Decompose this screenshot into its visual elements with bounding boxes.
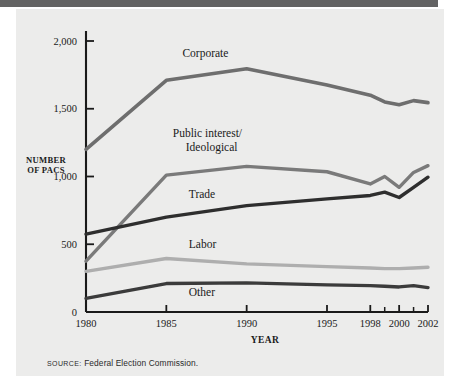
x-tick-label: 1995 — [317, 318, 338, 329]
x-tick-label: 1980 — [76, 318, 97, 329]
series-line — [86, 166, 428, 262]
x-axis-title: YEAR — [251, 335, 280, 345]
figure-page: 05001,0001,5002,000NUMBEROF PACS19801985… — [0, 0, 460, 390]
series-label: Corporate — [182, 47, 228, 60]
page-top-bar — [0, 0, 438, 7]
series-label: Public interest/ — [173, 127, 243, 139]
plot-area: 05001,0001,5002,000NUMBEROF PACS19801985… — [16, 9, 444, 376]
x-tick-label: 1990 — [236, 318, 257, 329]
x-tick-label: 1985 — [156, 318, 177, 329]
series-line — [86, 283, 428, 299]
line-chart: 05001,0001,5002,000NUMBEROF PACS19801985… — [16, 9, 444, 376]
series-label: Other — [189, 286, 215, 298]
source-note: SOURCE: Federal Election Commission. — [47, 358, 198, 368]
y-tick-label: 2,000 — [53, 36, 77, 47]
source-label: SOURCE: — [47, 360, 82, 367]
y-axis-title: NUMBER — [26, 155, 66, 165]
figure-block: 05001,0001,5002,000NUMBEROF PACS19801985… — [16, 9, 444, 376]
series-line — [86, 258, 428, 271]
x-tick-label: 1998 — [360, 318, 381, 329]
series-label-line2: Ideological — [186, 141, 238, 154]
y-tick-label: 500 — [61, 239, 77, 250]
series-line — [86, 69, 428, 150]
series-label: Labor — [189, 238, 217, 250]
series-label: Trade — [189, 188, 215, 200]
x-tick-label: 2000 — [389, 318, 410, 329]
x-tick-label: 2002 — [418, 318, 439, 329]
y-tick-label: 1,500 — [53, 103, 77, 114]
source-value: Federal Election Commission. — [84, 358, 198, 368]
y-axis-title-line2: OF PACS — [27, 165, 65, 175]
y-tick-label: 0 — [72, 307, 77, 318]
